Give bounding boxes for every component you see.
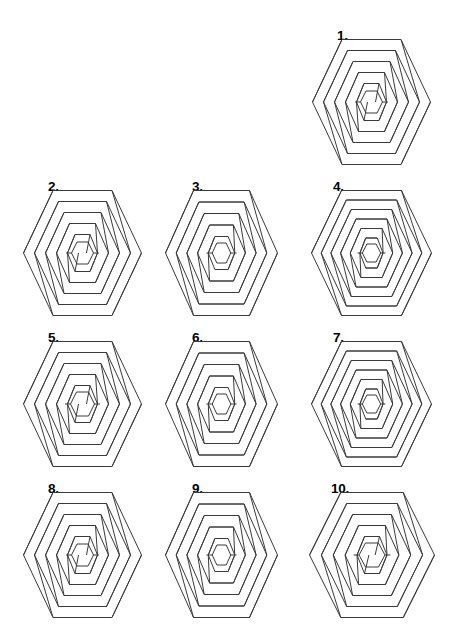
spiral-core-hexagon — [362, 395, 380, 413]
spiral-arm — [313, 40, 431, 165]
spiral-arm — [312, 191, 432, 316]
hexagon-spiral-drawing — [164, 491, 279, 619]
cropped-header-text: . . . . — [0, 0, 459, 6]
spiral-arm — [166, 342, 278, 467]
spiral-core-hexagon — [212, 243, 231, 263]
spiral-core-hexagon — [362, 244, 380, 262]
spiral-arm — [166, 493, 278, 618]
hexagon-spiral-drawing — [22, 340, 143, 468]
spiral-arm — [166, 191, 278, 316]
spiral-core-hexagon — [359, 543, 385, 567]
spiral-arm — [24, 191, 142, 316]
spiral-arm — [24, 493, 142, 618]
spiral-core-hexagon — [72, 544, 94, 566]
spiral-arm — [312, 342, 432, 467]
spiral-arm — [24, 191, 142, 316]
hexagon-spiral-drawing — [311, 38, 432, 166]
spiral-core-hexagon — [71, 392, 95, 416]
spiral-arm — [24, 342, 142, 467]
hexagon-spiral-drawing — [310, 340, 433, 468]
spiral-arm — [24, 493, 142, 618]
spiral-core-hexagon — [212, 545, 231, 565]
spiral-core-hexagon — [212, 394, 231, 414]
spiral-arm — [310, 493, 435, 618]
spiral-core-hexagon — [72, 242, 94, 264]
hexagon-spiral-drawing — [310, 189, 433, 317]
hexagon-spiral-drawing — [164, 340, 279, 468]
hexagon-spiral-drawing — [22, 189, 143, 317]
spiral-arm — [313, 40, 431, 165]
spiral-core-hexagon — [361, 91, 383, 113]
spiral-arm — [166, 342, 278, 467]
worksheet-page: . . . . 1.2.3.4.5.6.7.8.9.10. — [0, 0, 459, 628]
spiral-arm — [310, 493, 435, 618]
spiral-arm — [166, 493, 278, 618]
hexagon-spiral-drawing — [308, 491, 436, 619]
hexagon-spiral-drawing — [164, 189, 279, 317]
hexagon-spiral-drawing — [22, 491, 143, 619]
spiral-arm — [24, 342, 142, 467]
spiral-arm — [166, 191, 278, 316]
